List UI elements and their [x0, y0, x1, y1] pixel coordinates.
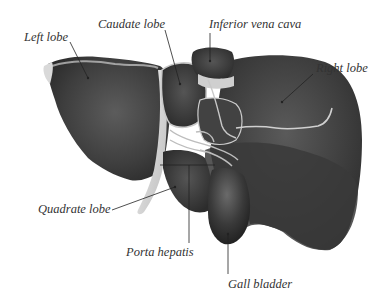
label-inferior-vena-cava: Inferior vena cava: [209, 18, 301, 31]
liver-illustration: [0, 0, 390, 306]
label-porta-hepatis: Porta hepatis: [126, 246, 194, 259]
label-quadrate-lobe: Quadrate lobe: [38, 203, 111, 216]
gall-bladder-shape: [208, 168, 250, 244]
left-lobe-shape: [47, 56, 170, 180]
label-gall-bladder: Gall bladder: [228, 278, 292, 291]
quadrate-lobe-shape: [163, 150, 212, 212]
inferior-vena-cava-shape: [192, 48, 235, 80]
label-left-lobe: Left lobe: [24, 31, 68, 44]
label-right-lobe: Right lobe: [316, 62, 368, 75]
liver-anatomy-diagram: Left lobe Caudate lobe Inferior vena cav…: [0, 0, 390, 306]
label-caudate-lobe: Caudate lobe: [98, 18, 165, 31]
